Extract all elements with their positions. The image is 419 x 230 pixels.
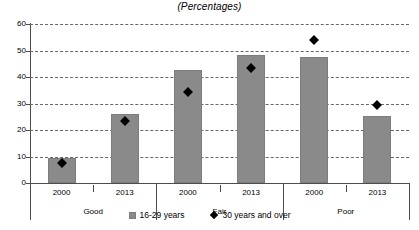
bar [363, 116, 391, 183]
y-tick-label: 20 [2, 126, 26, 134]
legend-bar-swatch-icon [129, 212, 136, 219]
legend-diamond-marker-icon [210, 211, 218, 219]
gridline [30, 130, 409, 131]
x-axis-year-label: 2000 [30, 184, 93, 202]
y-tick-label: 50 [2, 47, 26, 55]
data-point-marker [372, 100, 382, 110]
x-axis-year-label: 2013 [93, 184, 156, 202]
gridline [30, 104, 409, 105]
chart-legend: 16-29 years30 years and over [0, 207, 419, 223]
bar [237, 55, 265, 183]
gridline [30, 51, 409, 52]
y-tick-label: 0 [2, 179, 26, 187]
x-axis-minor-separator [220, 185, 221, 192]
y-tick-label: 40 [2, 73, 26, 81]
x-axis-year-label: 2013 [220, 184, 283, 202]
chart-container: (Percentages) 0102030405060 200020132000… [0, 0, 419, 230]
y-tick-label: 60 [2, 20, 26, 28]
legend-item: 30 years and over [210, 210, 290, 220]
x-axis-minor-separator [93, 185, 94, 192]
legend-label: 30 years and over [222, 210, 290, 220]
x-axis-year-label: 2013 [346, 184, 409, 202]
x-axis-year-label: 2000 [283, 184, 346, 202]
y-axis-labels: 0102030405060 [0, 0, 26, 230]
bar [300, 57, 328, 183]
y-tick-label: 10 [2, 153, 26, 161]
x-axis-year-label: 2000 [156, 184, 219, 202]
legend-label: 16-29 years [140, 210, 185, 220]
y-tick-label: 30 [2, 100, 26, 108]
chart-title: (Percentages) [0, 1, 419, 12]
gridline [30, 77, 409, 78]
data-point-marker [309, 35, 319, 45]
gridline [30, 24, 409, 25]
plot-area [30, 24, 409, 183]
gridline [30, 157, 409, 158]
legend-item: 16-29 years [129, 210, 185, 220]
x-axis-minor-separator [346, 185, 347, 192]
